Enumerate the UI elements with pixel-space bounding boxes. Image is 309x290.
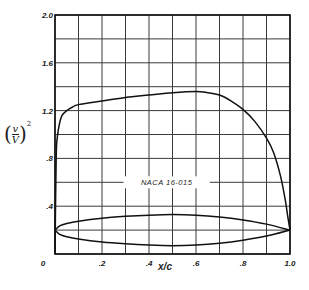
x-tick-label: 0: [41, 259, 46, 268]
y-tick-label: 1.2: [42, 107, 54, 116]
x-tick-label: .4: [146, 259, 153, 268]
y-axis-label: (vV)2: [4, 120, 31, 146]
y-axis-label-exponent: 2: [27, 120, 31, 128]
x-axis-label: x/c: [157, 261, 172, 272]
y-tick-label: .8: [46, 154, 53, 163]
grid-lines: [55, 15, 290, 254]
annotation: NACA 16-015: [124, 176, 210, 188]
y-axis-label-numerator: v: [13, 123, 19, 134]
x-tick-label: .2: [99, 259, 106, 268]
x-tick-label: 1.0: [284, 259, 296, 268]
chart: 0.2.4.6.81.0.4.81.21.62.0 NACA 16-015 x/…: [0, 0, 309, 290]
airfoil-name-label: NACA 16-015: [141, 178, 193, 187]
y-axis-label-denominator: V: [12, 134, 19, 145]
tick-labels: 0.2.4.6.81.0.4.81.21.62.0: [41, 11, 296, 268]
x-tick-label: .8: [240, 259, 247, 268]
y-tick-label: 1.6: [42, 59, 54, 68]
x-tick-label: .6: [193, 259, 200, 268]
y-tick-label: 2.0: [41, 11, 54, 20]
y-tick-label: .4: [46, 202, 53, 211]
